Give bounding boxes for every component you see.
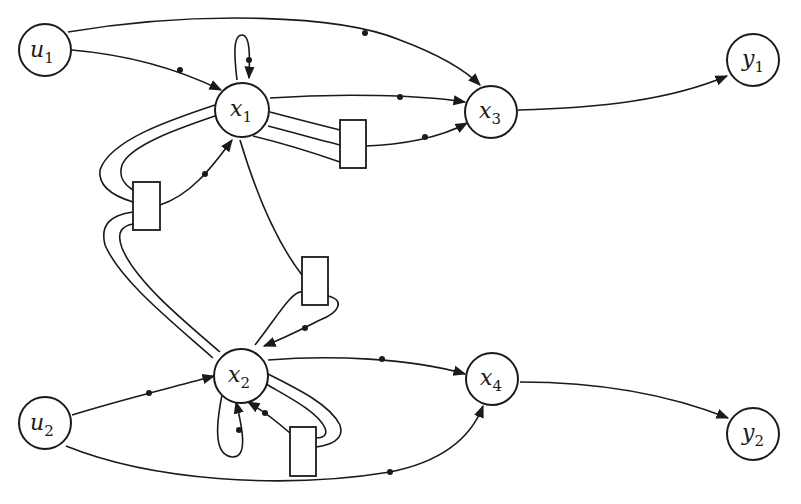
edge-box-d-x2 xyxy=(248,402,290,433)
edge-u1-x3 xyxy=(68,18,480,85)
node-x3: x3 xyxy=(465,86,517,138)
edge-x3-y1 xyxy=(518,76,727,110)
edge-box-c-x2 xyxy=(255,292,302,345)
edge-x4-y2 xyxy=(520,382,728,418)
node-y1: y1 xyxy=(727,34,779,86)
edge-x2-box-b-inner xyxy=(120,224,220,352)
edge-u2-x4 xyxy=(66,406,483,481)
node-y2: y2 xyxy=(727,408,779,460)
node-u2: u2 xyxy=(19,397,71,449)
edge-x1-box-a-1 xyxy=(270,112,340,130)
edge-box-a-x3 xyxy=(366,123,467,146)
edge-u2-x2 xyxy=(72,376,214,415)
box-b xyxy=(133,182,160,230)
structure-digraph: u1 u2 x1 x2 x3 x4 y1 y2 xyxy=(0,0,801,504)
edge-x2-self-loop xyxy=(218,395,243,457)
edge-box-b-x1 xyxy=(160,140,232,205)
edge-u1-x1 xyxy=(72,50,221,90)
box-c xyxy=(302,257,328,305)
node-x4: x4 xyxy=(466,353,518,405)
edge-x1-x3 xyxy=(270,95,465,102)
edge-x1-self-loop xyxy=(235,35,250,80)
box-a xyxy=(340,120,366,168)
box-d xyxy=(290,427,316,476)
edge-x2-x4 xyxy=(268,358,465,374)
edge-x1-box-c xyxy=(240,140,302,275)
edge-x1-box-a-3 xyxy=(253,136,340,162)
node-u1: u1 xyxy=(19,24,71,76)
node-x1: x1 xyxy=(215,83,269,137)
node-x2: x2 xyxy=(214,349,268,403)
